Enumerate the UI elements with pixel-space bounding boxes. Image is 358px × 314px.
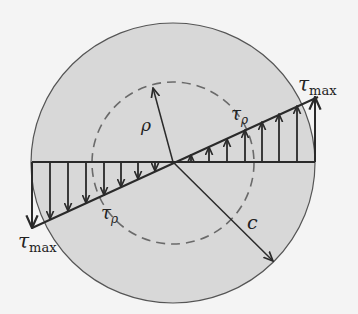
label-tau-max-top: τmax xyxy=(298,72,337,98)
label-c: c xyxy=(247,211,258,233)
shaft-diagram: ρ c τmax τρ τρ τmax xyxy=(0,0,358,314)
label-rho: ρ xyxy=(140,115,151,135)
